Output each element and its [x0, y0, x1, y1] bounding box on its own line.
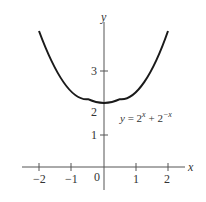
x-tick-label-m2: −2 — [33, 172, 46, 186]
x-tick-label-2: 2 — [164, 172, 170, 186]
y-tick-label-1: 1 — [91, 128, 97, 142]
y-tick-label-2: 2 — [91, 105, 97, 119]
x-tick-label-1: 1 — [133, 172, 139, 186]
x-tick-label-m1: −1 — [65, 172, 78, 186]
y-tick-label-3: 3 — [91, 64, 97, 78]
function-graph: −2 −1 0 1 2 1 2 3 x y y = 2x + 2−x — [0, 0, 206, 202]
y-axis-label: y — [100, 10, 107, 24]
x-tick-label-0: 0 — [94, 170, 100, 184]
x-axis-label: x — [187, 160, 194, 174]
equation-label: y = 2x + 2−x — [119, 110, 172, 124]
